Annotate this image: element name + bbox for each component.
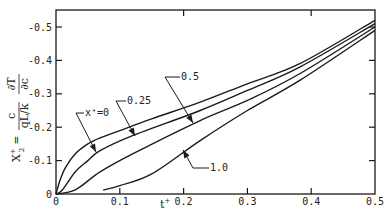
y-axis-title: X+2= c qL/k ∂T ∂c (5, 74, 31, 162)
curve-label: 0.25 (127, 95, 151, 106)
curve-label: x⁺=0 (85, 107, 109, 118)
x-tick-label: 0.4 (302, 196, 320, 207)
x-tick-label: 0.5 (366, 196, 384, 207)
arrow-icon (129, 128, 135, 136)
annotation-x-0: x⁺=0 (76, 107, 109, 152)
y-tick-label: -0.4 (28, 55, 52, 66)
x-tick-label: 0.2 (175, 196, 193, 207)
chart: 00.10.20.30.40.50-0.1-0.2-0.3-0.4-0.5 x⁺… (0, 0, 387, 212)
svg-text:c: c (5, 113, 18, 119)
annotation-x-1-0: 1.0 (183, 150, 228, 173)
curve-x-1-0 (103, 30, 375, 190)
svg-text:X+2=: X+2= (9, 136, 26, 162)
x-tick-label: 0.3 (238, 196, 256, 207)
y-tick-label: -0.3 (28, 88, 52, 99)
y-tick-label: -0.2 (28, 122, 52, 133)
x-axis-title: t+ (160, 197, 170, 211)
curve-label: 1.0 (210, 162, 228, 173)
svg-text:qL/k: qL/k (18, 103, 31, 128)
arrow-icon (90, 144, 96, 152)
annotation-x-0-5: 0.5 (165, 71, 199, 123)
arrow-icon (183, 150, 190, 158)
y-tick-label: 0 (46, 189, 52, 200)
svg-text:∂T: ∂T (5, 77, 18, 91)
x-tick-label: 0 (53, 196, 59, 207)
curve-label: 0.5 (181, 71, 199, 82)
y-tick-label: -0.1 (28, 155, 52, 166)
y-tick-label: -0.5 (28, 22, 52, 33)
curve-annotations: x⁺=00.250.51.0 (76, 71, 228, 173)
svg-text:∂c: ∂c (18, 78, 31, 90)
x-tick-label: 0.1 (111, 196, 129, 207)
